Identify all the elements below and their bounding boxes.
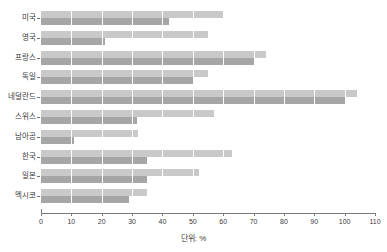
x-axis-tick-label: 20 bbox=[90, 218, 114, 226]
x-axis-tick-label: 60 bbox=[211, 218, 235, 226]
bar-light bbox=[41, 31, 208, 38]
y-axis-tick bbox=[37, 77, 40, 78]
bar-dark bbox=[41, 117, 137, 124]
x-axis-tick bbox=[162, 213, 163, 216]
x-axis-tick bbox=[254, 213, 255, 216]
bar-group bbox=[41, 130, 375, 144]
x-axis-tick-label: 50 bbox=[181, 218, 205, 226]
chart-title bbox=[0, 0, 387, 2]
bar-group bbox=[41, 110, 375, 124]
bar-group bbox=[41, 189, 375, 203]
plot-area bbox=[41, 8, 375, 206]
x-axis-tick-label: 0 bbox=[29, 218, 53, 226]
gridline-overlay bbox=[162, 8, 163, 206]
bar-light bbox=[41, 51, 266, 58]
x-axis-tick bbox=[375, 213, 376, 216]
x-axis-tick bbox=[223, 213, 224, 216]
y-axis-tick bbox=[37, 196, 40, 197]
y-axis-label: 멕시코 bbox=[15, 192, 36, 200]
x-axis-tick-label: 70 bbox=[242, 218, 266, 226]
bar-dark bbox=[41, 196, 129, 203]
y-axis-tick bbox=[37, 176, 40, 177]
bar-group bbox=[41, 70, 375, 84]
bar-light bbox=[41, 150, 232, 157]
x-axis-tick-label: 90 bbox=[302, 218, 326, 226]
gridline-overlay bbox=[375, 8, 376, 206]
y-axis-label: 미국 bbox=[22, 14, 36, 22]
x-axis-tick-label: 10 bbox=[59, 218, 83, 226]
gridline-overlay bbox=[254, 8, 255, 206]
y-axis-tick bbox=[37, 137, 40, 138]
bar-light bbox=[41, 169, 199, 176]
gridline-overlay bbox=[193, 8, 194, 206]
x-axis-tick-label: 40 bbox=[150, 218, 174, 226]
gridline-overlay bbox=[102, 8, 103, 206]
x-axis-tick-label: 110 bbox=[363, 218, 387, 226]
y-axis-label: 스위스 bbox=[15, 113, 36, 121]
bar-group bbox=[41, 31, 375, 45]
y-axis-category-labels: 미국영국프랑스독일네덜란드스위스남아공한국일본멕시코 bbox=[0, 8, 36, 206]
bar-chart: 미국영국프랑스독일네덜란드스위스남아공한국일본멕시코 단위: % 0102030… bbox=[0, 0, 387, 252]
x-axis-tick bbox=[41, 213, 42, 216]
bar-group bbox=[41, 150, 375, 164]
bar-dark bbox=[41, 58, 254, 65]
y-axis-tick bbox=[37, 97, 40, 98]
bar-light bbox=[41, 90, 357, 97]
y-axis-tick bbox=[37, 38, 40, 39]
y-axis-tick bbox=[37, 58, 40, 59]
y-axis-label: 일본 bbox=[22, 172, 36, 180]
bar-light bbox=[41, 110, 214, 117]
gridline-overlay bbox=[314, 8, 315, 206]
y-axis-label: 남아공 bbox=[15, 133, 36, 141]
x-axis-tick bbox=[102, 213, 103, 216]
bar-light bbox=[41, 70, 208, 77]
x-axis-title: 단위: % bbox=[0, 232, 387, 243]
x-axis-tick-label: 100 bbox=[333, 218, 357, 226]
y-axis-label: 한국 bbox=[22, 153, 36, 161]
y-axis-tick bbox=[37, 157, 40, 158]
x-axis-tick-label: 80 bbox=[272, 218, 296, 226]
bar-group bbox=[41, 169, 375, 183]
gridline-overlay bbox=[223, 8, 224, 206]
y-axis-tick bbox=[37, 18, 40, 19]
gridline-overlay bbox=[71, 8, 72, 206]
x-axis-line bbox=[41, 213, 375, 214]
y-axis-label: 프랑스 bbox=[15, 54, 36, 62]
gridline-overlay bbox=[284, 8, 285, 206]
x-axis-tick bbox=[314, 213, 315, 216]
y-axis-tick bbox=[37, 117, 40, 118]
bar-light bbox=[41, 130, 138, 137]
x-axis-tick bbox=[345, 213, 346, 216]
bar-group bbox=[41, 51, 375, 65]
y-axis-label: 독일 bbox=[22, 73, 36, 81]
x-axis-tick bbox=[71, 213, 72, 216]
y-axis-label: 영국 bbox=[22, 34, 36, 42]
bar-group bbox=[41, 11, 375, 25]
gridline-overlay bbox=[132, 8, 133, 206]
x-axis-tick bbox=[193, 213, 194, 216]
x-axis-tick bbox=[284, 213, 285, 216]
gridline-overlay bbox=[345, 8, 346, 206]
x-axis-tick-label: 30 bbox=[120, 218, 144, 226]
bar-dark bbox=[41, 18, 169, 25]
x-axis-tick bbox=[132, 213, 133, 216]
y-axis-label: 네덜란드 bbox=[8, 93, 36, 101]
bar-dark bbox=[41, 77, 193, 84]
bar-dark bbox=[41, 38, 105, 45]
bar-dark bbox=[41, 137, 74, 144]
bar-group bbox=[41, 90, 375, 104]
